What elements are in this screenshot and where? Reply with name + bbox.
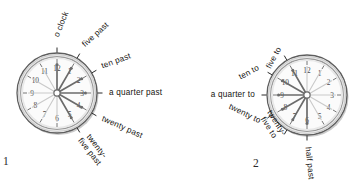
time-phrase-label: a quarter to	[211, 91, 255, 100]
time-phrase-label: a quarter past	[109, 89, 162, 98]
clock-time-phrases-figure: 121234567891011 o clockfive pastten past…	[0, 0, 361, 189]
figure-number-1: 1	[3, 155, 9, 167]
figure-2-group: 121234567891011 five toten toa quarter t…	[181, 0, 361, 189]
figure-number-2: 2	[253, 157, 259, 169]
figure-1-group: 121234567891011 o clockfive pastten past…	[0, 0, 180, 189]
clock-face-to: 121234567891011	[181, 0, 361, 189]
